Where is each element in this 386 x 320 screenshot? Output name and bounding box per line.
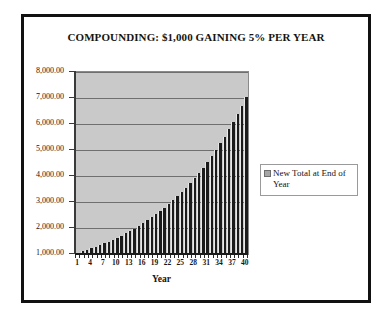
bar [236,114,239,254]
chart-figure-frame: COMPOUNDING: $1,000 GAINING 5% PER YEAR … [21,14,371,303]
x-axis-tick [200,255,201,258]
x-axis-title: Year [75,274,248,284]
bar [205,162,208,254]
x-axis-tick [92,255,93,258]
y-axis-tick [69,227,74,228]
bar [227,129,230,254]
x-axis-tick [238,255,239,258]
x-axis-tick [187,255,188,258]
bar [154,214,157,254]
y-axis-tick-label: 8,000.00 [36,67,64,75]
x-axis-tick [122,255,123,258]
legend-entry: New Total at End of Year [264,168,354,189]
bar [137,226,140,254]
bar [167,204,170,254]
y-axis-tick-label: 7,000.00 [36,93,64,101]
x-axis-tick [213,255,214,258]
bar [150,217,153,254]
y-axis-tick-label: 3,000.00 [36,197,64,205]
y-axis-tick-label: 5,000.00 [36,145,64,153]
bar [119,236,122,254]
bar [193,178,196,254]
legend-entry-label: New Total at End of Year [273,168,354,189]
bar [158,211,161,254]
y-axis-tick [69,97,74,98]
y-axis-tick-label: 1,000.00 [36,249,64,257]
x-axis-tick [148,255,149,258]
bar [132,229,135,254]
y-axis-tick [69,123,74,124]
y-axis-tick [69,149,74,150]
x-axis-tick [135,255,136,258]
x-axis-tick [79,255,80,258]
x-axis-tick [226,255,227,258]
x-axis-tick [174,255,175,258]
bars-layer [76,72,248,254]
bar [223,137,226,254]
bar [244,97,247,254]
bar [240,106,243,254]
bar [115,238,118,254]
y-axis-tick-label: 2,000.00 [36,223,64,231]
bar [231,122,234,254]
x-axis-tick [161,255,162,258]
bar [180,192,183,254]
x-axis-tick [109,255,110,258]
y-axis-tick [69,201,74,202]
y-axis-line [74,71,76,254]
chart-legend: New Total at End of Year [260,164,358,196]
plot-area [75,71,249,255]
bar [214,150,217,254]
bar [128,231,131,254]
y-axis-tick [69,253,74,254]
bar [184,188,187,254]
x-axis-tick [84,255,85,258]
y-axis-tick-label: 4,000.00 [36,171,64,179]
y-axis-tick [69,175,74,176]
bar [171,200,174,254]
legend-swatch-icon [264,170,271,177]
x-axis-tick-label: 40 [236,259,254,267]
x-axis-tick [97,255,98,258]
bar [162,208,165,254]
bar [141,223,144,254]
bar [218,143,221,254]
x-axis-tick [105,255,106,258]
bar [197,173,200,254]
bar [124,233,127,254]
bar [210,156,213,254]
y-axis-tick-label: 6,000.00 [36,119,64,127]
y-axis-tick [69,71,74,72]
bar [175,196,178,254]
bar [111,240,114,254]
bar [145,220,148,254]
chart-title: COMPOUNDING: $1,000 GAINING 5% PER YEAR [24,31,368,43]
bar [188,183,191,254]
bar [201,168,204,254]
